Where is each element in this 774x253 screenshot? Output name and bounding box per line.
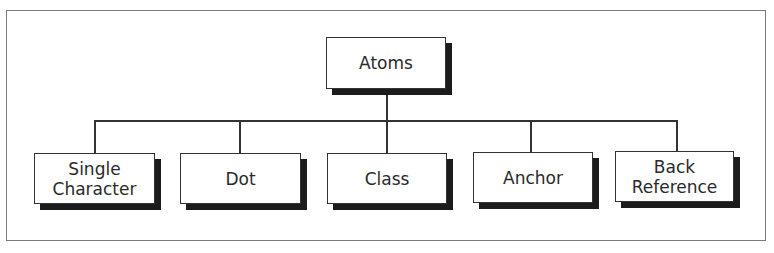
node-back-reference-label: Back Reference [632, 157, 718, 197]
node-single-character: Single Character [34, 153, 155, 204]
node-anchor-label: Anchor [503, 168, 563, 188]
node-back-reference: Back Reference [615, 151, 734, 202]
node-anchor: Anchor [473, 152, 593, 203]
node-atoms-label: Atoms [359, 53, 413, 73]
root-stem-connector [386, 88, 388, 121]
node-atoms: Atoms [326, 37, 446, 89]
node-dot: Dot [180, 153, 301, 204]
child-connector-class [386, 120, 388, 154]
child-connector-anchor [530, 120, 532, 154]
node-class: Class [327, 153, 447, 204]
node-single-character-label: Single Character [53, 159, 137, 199]
child-connector-dot [239, 120, 241, 154]
child-connector-single-character [94, 120, 96, 154]
child-connector-back-reference [676, 120, 678, 152]
node-dot-label: Dot [225, 169, 255, 189]
node-class-label: Class [365, 169, 410, 189]
